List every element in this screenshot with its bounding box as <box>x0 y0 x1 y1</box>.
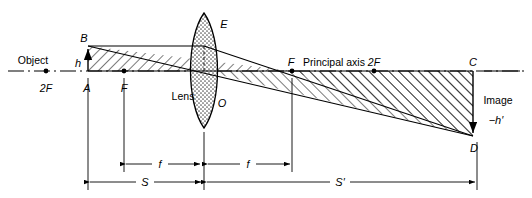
dimension-image-distance: S′ <box>207 175 475 188</box>
label-two-f-left: 2F <box>39 82 53 94</box>
label-point-B: B <box>80 32 87 44</box>
dimension-focal-left: f <box>126 157 200 170</box>
dimension-focal-right: f <box>208 157 290 170</box>
dimension-object-distance: S <box>90 175 201 188</box>
focal-right-dot <box>290 69 295 74</box>
label-lens: Lens <box>172 90 195 102</box>
thin-lens-diagram: B A F 2F E O F 2F C D Object h Principal… <box>0 0 532 198</box>
label-object: Object <box>18 54 48 66</box>
label-dim-S-prime: S′ <box>335 176 345 188</box>
label-point-C: C <box>469 56 477 68</box>
label-point-O: O <box>218 97 227 109</box>
two-f-right-dot <box>372 69 377 74</box>
label-object-height: h <box>75 57 81 69</box>
label-dim-S: S <box>141 176 149 188</box>
label-point-A: A <box>82 82 90 94</box>
label-principal-axis: Principal axis <box>303 56 365 68</box>
label-focal-right: F <box>288 56 296 68</box>
label-point-E: E <box>220 18 228 30</box>
ray-diagram-canvas: B A F 2F E O F 2F C D Object h Principal… <box>0 0 532 198</box>
label-image-height: −h′ <box>489 114 505 126</box>
label-two-f-right: 2F <box>367 56 381 68</box>
label-focal-left: F <box>121 82 129 94</box>
focal-left-dot <box>122 69 127 74</box>
label-image: Image <box>483 94 512 106</box>
two-f-left-dot <box>44 69 49 74</box>
